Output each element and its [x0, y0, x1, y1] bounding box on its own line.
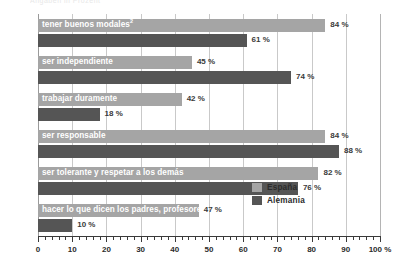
bar-espana: tener buenos modales2 [38, 19, 325, 32]
x-axis-minor-tick [291, 237, 292, 240]
x-axis-minor-tick [202, 237, 203, 240]
gridline-100 [380, 14, 381, 236]
bar-alemania [38, 71, 291, 84]
value-label-espana: 45 % [197, 58, 215, 66]
x-axis-minor-tick [366, 237, 367, 240]
bar-espana: trabajar duramente [38, 93, 182, 106]
value-label-espana: 42 % [187, 95, 205, 103]
x-axis-major-tick [141, 237, 142, 242]
x-axis-minor-tick [147, 237, 148, 240]
horizontal-bar-chart: tener buenos modales284 %61 %ser indepen… [0, 0, 407, 269]
x-axis-tick-label: 70 [273, 246, 282, 254]
value-label-alemania: 88 % [344, 147, 362, 155]
x-axis-major-tick [38, 237, 39, 242]
x-axis-minor-tick [373, 237, 374, 240]
x-axis-minor-tick [264, 237, 265, 240]
value-label-alemania: 76 % [303, 184, 321, 192]
x-axis-minor-tick [332, 237, 333, 240]
x-axis-tick-label: 20 [102, 246, 111, 254]
bar-group: tener buenos modales284 %61 % [38, 14, 380, 51]
x-axis-minor-tick [127, 237, 128, 240]
value-label-espana: 82 % [323, 169, 341, 177]
legend-label: Alemania [267, 196, 305, 205]
bar-group: ser tolerante y respetar a los demás82 %… [38, 162, 380, 199]
bar-group: ser responsable84 %88 % [38, 125, 380, 162]
x-axis-minor-tick [45, 237, 46, 240]
category-label: tener buenos modales2 [42, 21, 133, 29]
x-axis-minor-tick [325, 237, 326, 240]
value-label-alemania: 18 % [105, 110, 123, 118]
x-axis-tick-label: 90 [341, 246, 350, 254]
value-label-espana: 84 % [330, 21, 348, 29]
x-axis-minor-tick [154, 237, 155, 240]
x-axis-major-tick [312, 237, 313, 242]
x-axis-minor-tick [353, 237, 354, 240]
x-axis-tick-label: 100 % [369, 246, 392, 254]
x-axis-minor-tick [79, 237, 80, 240]
category-footnote-marker: 2 [130, 18, 133, 24]
plot-area: tener buenos modales284 %61 %ser indepen… [38, 14, 380, 236]
x-axis-minor-tick [298, 237, 299, 240]
x-axis-tick-label: 80 [307, 246, 316, 254]
x-axis-major-tick [380, 237, 381, 242]
category-label: hacer lo que dicen los padres, profesore… [42, 206, 215, 214]
x-axis-minor-tick [216, 237, 217, 240]
bar-alemania [38, 145, 339, 158]
x-axis-minor-tick [161, 237, 162, 240]
x-axis-minor-tick [195, 237, 196, 240]
x-axis-major-tick [209, 237, 210, 242]
x-axis-minor-tick [223, 237, 224, 240]
bar-espana: ser responsable [38, 130, 325, 143]
x-axis-tick-label: 60 [239, 246, 248, 254]
x-axis-major-tick [72, 237, 73, 242]
x-axis-minor-tick [230, 237, 231, 240]
x-axis-minor-tick [236, 237, 237, 240]
x-axis-tick-label: 10 [68, 246, 77, 254]
x-axis-minor-tick [120, 237, 121, 240]
value-label-alemania: 61 % [252, 36, 270, 44]
x-axis-minor-tick [188, 237, 189, 240]
value-label-espana: 47 % [204, 206, 222, 214]
x-axis-minor-tick [257, 237, 258, 240]
x-axis-major-tick [106, 237, 107, 242]
bar-alemania [38, 34, 247, 47]
x-axis-tick-label: 50 [205, 246, 214, 254]
value-label-alemania: 10 % [77, 221, 95, 229]
legend-item[interactable]: España [252, 182, 305, 193]
legend-item[interactable]: Alemania [252, 195, 305, 206]
x-axis-minor-tick [305, 237, 306, 240]
category-label: ser independiente [42, 58, 113, 66]
bar-espana: ser independiente [38, 56, 192, 69]
x-axis-minor-tick [359, 237, 360, 240]
x-axis-major-tick [175, 237, 176, 242]
bar-alemania [38, 219, 72, 232]
x-axis-minor-tick [318, 237, 319, 240]
bar-espana: ser tolerante y respetar a los demás [38, 167, 318, 180]
bar-espana: hacer lo que dicen los padres, profesore… [38, 204, 199, 217]
chart-legend: EspañaAlemania [252, 182, 305, 208]
x-axis-tick-label: 30 [136, 246, 145, 254]
x-axis-minor-tick [168, 237, 169, 240]
category-label: ser responsable [42, 132, 106, 140]
x-axis-minor-tick [59, 237, 60, 240]
x-axis-minor-tick [93, 237, 94, 240]
x-axis-minor-tick [284, 237, 285, 240]
category-label: trabajar duramente [42, 95, 117, 103]
bar-group: hacer lo que dicen los padres, profesore… [38, 199, 380, 236]
x-axis-major-tick [243, 237, 244, 242]
bar-group: ser independiente45 %74 % [38, 51, 380, 88]
x-axis-minor-tick [113, 237, 114, 240]
x-axis-minor-tick [100, 237, 101, 240]
x-axis-minor-tick [182, 237, 183, 240]
bar-group: trabajar duramente42 %18 % [38, 88, 380, 125]
x-axis-minor-tick [52, 237, 53, 240]
x-axis-major-tick [277, 237, 278, 242]
x-axis-minor-tick [65, 237, 66, 240]
x-axis-minor-tick [86, 237, 87, 240]
x-axis-major-tick [346, 237, 347, 242]
bar-alemania [38, 108, 100, 121]
x-axis-minor-tick [134, 237, 135, 240]
value-label-espana: 84 % [330, 132, 348, 140]
x-axis-tick-label: 0 [36, 246, 40, 254]
x-axis-tick-label: 40 [170, 246, 179, 254]
